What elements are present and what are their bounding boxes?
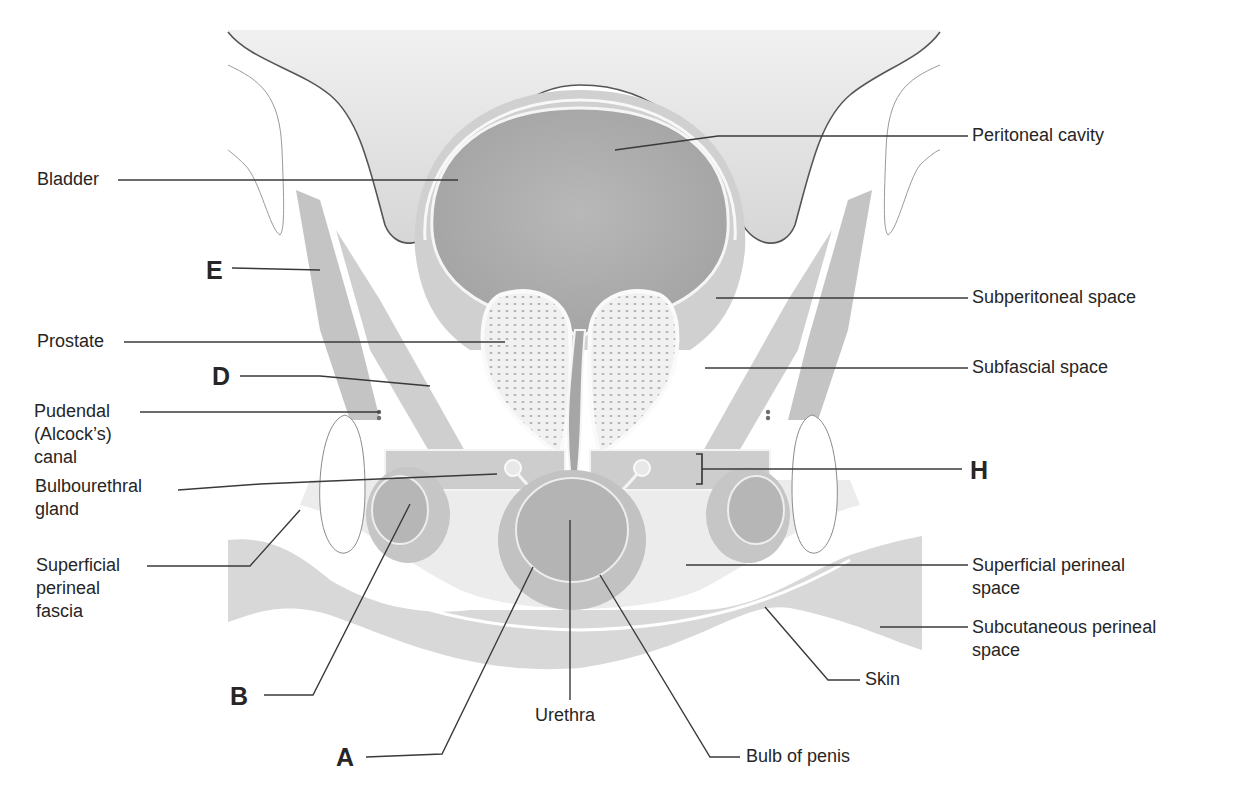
anatomy-figure: Bladder E Prostate D Pudendal (Alcock’s)… — [0, 0, 1236, 799]
label-subperitoneal-space: Subperitoneal space — [972, 286, 1136, 309]
bulb-of-penis-shape — [498, 470, 646, 610]
label-letter-h: H — [970, 456, 988, 484]
label-prostate: Prostate — [37, 330, 104, 353]
label-peritoneal-cavity: Peritoneal cavity — [972, 124, 1104, 147]
label-superficial-perineal-fascia: Superficial perineal fascia — [36, 554, 120, 623]
label-letter-d: D — [212, 362, 230, 390]
label-bulb-of-penis: Bulb of penis — [746, 745, 850, 768]
label-superficial-perineal-space: Superficial perineal space — [972, 554, 1125, 600]
label-skin: Skin — [865, 668, 900, 691]
label-letter-b: B — [230, 682, 248, 710]
label-pudendal-canal: Pudendal (Alcock’s) canal — [34, 400, 112, 469]
label-letter-a: A — [336, 743, 354, 771]
label-urethra: Urethra — [535, 704, 595, 727]
label-bulbourethral-gland: Bulbourethral gland — [35, 475, 142, 521]
label-subfascial-space: Subfascial space — [972, 356, 1108, 379]
label-bladder: Bladder — [37, 168, 99, 191]
label-letter-e: E — [206, 256, 223, 284]
pelvis-cross-section-illustration — [0, 0, 1236, 799]
label-subcutaneous-perineal-space: Subcutaneous perineal space — [972, 616, 1156, 662]
